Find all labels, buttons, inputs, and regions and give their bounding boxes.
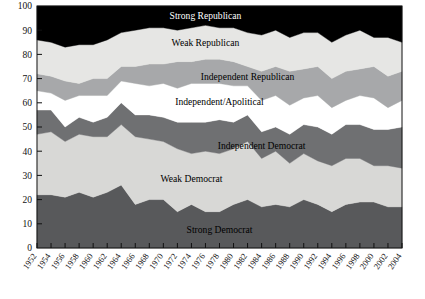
x-tick-label: 1968: [133, 251, 151, 271]
y-tick-label: 40: [23, 147, 33, 157]
series-label-independent-apolitical: Independent/Apolitical: [175, 96, 264, 107]
series-label-strong-democrat: Strong Democrat: [187, 224, 253, 235]
x-tick-label: 1960: [77, 251, 95, 271]
x-tick-label-group: 1952195419561958196019621964196619681970…: [21, 251, 404, 271]
y-tick-label: 100: [18, 1, 33, 11]
series-label-weak-republican: Weak Republican: [172, 37, 240, 48]
x-tick-label: 1976: [189, 251, 207, 271]
x-tick-label: 1974: [175, 251, 193, 271]
x-tick-label: 1982: [231, 251, 249, 271]
x-tick-label: 1952: [21, 251, 39, 271]
x-tick-label: 1954: [35, 251, 53, 271]
series-label-independent-republican: Independent Republican: [201, 71, 295, 82]
x-tick-label: 1980: [217, 251, 235, 271]
x-tick-label: 1992: [301, 251, 319, 271]
x-tick-label: 1972: [161, 251, 179, 271]
x-tick-label: 1986: [259, 251, 277, 271]
x-tick-label: 1966: [119, 251, 137, 271]
y-tick-label: 80: [23, 50, 33, 60]
y-tick-label: 90: [23, 26, 33, 36]
x-tick-label: 2000: [358, 251, 376, 271]
x-tick-label: 1958: [63, 251, 81, 271]
x-tick-label: 1990: [287, 251, 305, 271]
x-tick-label: 1996: [329, 251, 347, 271]
x-tick-label: 1970: [147, 251, 165, 271]
y-tick-label-group: 0102030405060708090100: [18, 1, 33, 253]
x-tick-label: 1998: [343, 251, 361, 271]
y-tick-label: 10: [23, 219, 33, 229]
series-label-independent-democrat: Independent Democrat: [218, 140, 306, 151]
party-identification-plot: 0102030405060708090100 19521954195619581…: [0, 0, 425, 299]
x-tick-label: 1956: [49, 251, 67, 271]
x-tick-label: 2004: [386, 251, 404, 271]
x-tick-label: 1978: [203, 251, 221, 271]
y-tick-label: 50: [23, 122, 33, 132]
x-tick-label: 2002: [372, 251, 390, 271]
y-tick-label: 30: [23, 171, 33, 181]
x-tick-label: 1984: [245, 251, 263, 271]
x-tick-label: 1962: [91, 251, 109, 271]
stacked-area-chart: 0102030405060708090100 19521954195619581…: [0, 0, 425, 299]
y-tick-label: 60: [23, 98, 33, 108]
x-tick-label: 1964: [105, 251, 123, 271]
x-tick-label: 1994: [315, 251, 333, 271]
y-tick-label: 70: [23, 74, 33, 84]
series-label-weak-democrat: Weak Democrat: [161, 173, 223, 184]
y-tick-label: 20: [23, 195, 33, 205]
x-tick-label: 1988: [273, 251, 291, 271]
series-label-strong-republican: Strong Republican: [170, 10, 242, 21]
